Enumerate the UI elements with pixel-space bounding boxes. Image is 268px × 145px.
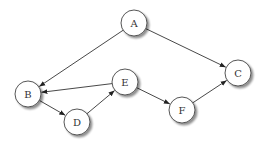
node-f: F xyxy=(169,97,195,123)
node-label: C xyxy=(234,68,242,79)
node-label: F xyxy=(179,105,186,116)
edge-d-to-e xyxy=(87,91,115,114)
node-label: E xyxy=(121,77,128,88)
nodes-layer: ABCDEF xyxy=(15,10,251,135)
node-e: E xyxy=(112,69,138,95)
edge-a-to-c xyxy=(146,29,226,68)
edge-a-to-b xyxy=(39,30,123,86)
node-label: B xyxy=(24,89,31,100)
node-label: D xyxy=(73,117,81,128)
node-c: C xyxy=(225,60,251,86)
node-d: D xyxy=(64,109,90,135)
edge-f-to-c xyxy=(193,80,227,102)
directed-graph-diagram: ABCDEF xyxy=(0,0,268,145)
node-b: B xyxy=(15,81,41,107)
graph-canvas: ABCDEF xyxy=(0,0,268,145)
edge-b-to-d xyxy=(39,100,65,115)
edge-e-to-f xyxy=(137,88,170,104)
edge-e-to-b xyxy=(41,84,112,93)
node-a: A xyxy=(121,10,147,36)
node-label: A xyxy=(129,18,138,29)
